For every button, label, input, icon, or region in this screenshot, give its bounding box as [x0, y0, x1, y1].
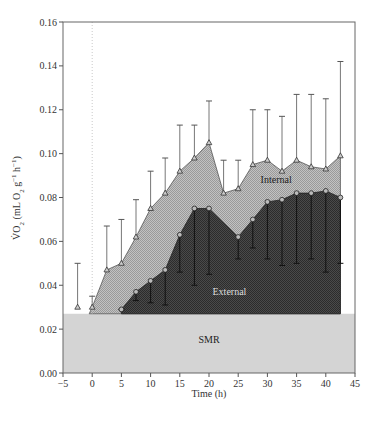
y-tick-label: 0.10 — [40, 148, 58, 159]
x-axis-label: Time (h) — [192, 388, 227, 400]
external-circle-marker — [119, 307, 124, 312]
x-tick-label: 45 — [350, 378, 360, 389]
x-tick-label: 25 — [233, 378, 243, 389]
x-tick-label: 15 — [175, 378, 185, 389]
x-tick-label: 5 — [119, 378, 124, 389]
internal-triangle-marker — [75, 304, 81, 309]
y-tick-label: 0.02 — [40, 324, 58, 335]
x-tick-label: 40 — [321, 378, 331, 389]
x-tick-label: 30 — [262, 378, 272, 389]
external-circle-marker — [148, 278, 153, 283]
internal-triangle-marker — [206, 140, 212, 145]
plot-area: InternalExternalSMR0.000.020.040.060.080… — [40, 17, 361, 390]
external-circle-marker — [265, 199, 270, 204]
internal-triangle-marker — [338, 153, 344, 158]
external-label: External — [213, 286, 247, 297]
internal-label: Internal — [261, 174, 292, 185]
y-tick-label: 0.16 — [40, 17, 58, 28]
vo2-time-chart: InternalExternalSMR0.000.020.040.060.080… — [0, 0, 377, 421]
y-tick-label: 0.14 — [40, 60, 58, 71]
y-axis-title: V̇O2 (mL O2 g−1 h−1) — [10, 156, 26, 240]
external-circle-marker — [250, 217, 255, 222]
external-circle-marker — [338, 195, 343, 200]
internal-triangle-marker — [294, 157, 300, 162]
x-tick-label: 35 — [292, 378, 302, 389]
external-circle-marker — [134, 289, 139, 294]
external-circle-marker — [294, 191, 299, 196]
y-tick-label: 0.06 — [40, 236, 58, 247]
external-circle-marker — [323, 189, 328, 194]
external-circle-marker — [280, 197, 285, 202]
y-tick-label: 0.08 — [40, 192, 58, 203]
y-tick-label: 0.00 — [40, 368, 58, 379]
y-axis-label: V̇O2 (mL O2 g−1 h−1) — [10, 156, 26, 240]
y-tick-label: 0.12 — [40, 104, 58, 115]
external-circle-marker — [236, 235, 241, 240]
external-circle-marker — [309, 191, 314, 196]
x-tick-label: 0 — [90, 378, 95, 389]
internal-triangle-marker — [265, 157, 271, 162]
external-circle-marker — [192, 206, 197, 211]
external-circle-marker — [177, 232, 182, 237]
external-circle-marker — [207, 206, 212, 211]
external-circle-marker — [163, 267, 168, 272]
x-tick-label: −5 — [58, 378, 69, 389]
x-tick-label: 10 — [146, 378, 156, 389]
smr-label: SMR — [198, 334, 219, 345]
y-tick-label: 0.04 — [40, 280, 58, 291]
